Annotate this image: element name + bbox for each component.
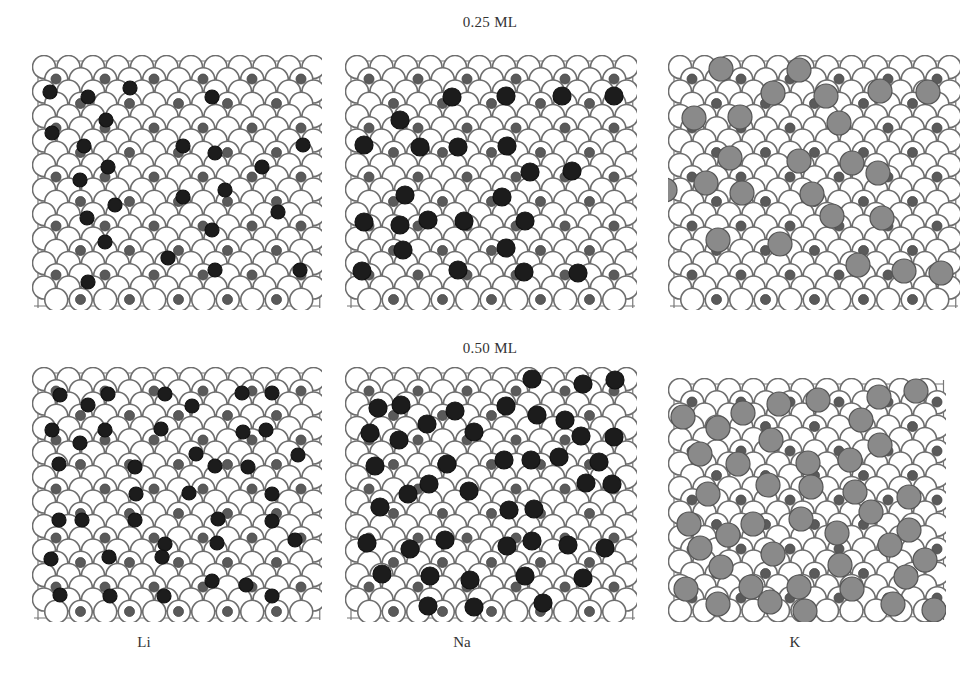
interstitial-atom <box>174 607 184 617</box>
interstitial-atom <box>389 460 399 470</box>
interstitial-atom <box>834 172 844 182</box>
k-adsorbate-atom <box>718 146 742 170</box>
panel-k-025 <box>668 55 960 310</box>
na-adsorbate-atom <box>418 415 436 433</box>
interstitial-atom <box>247 123 257 133</box>
interstitial-atom <box>438 246 448 256</box>
panel-li-050 <box>32 367 322 622</box>
na-adsorbate-atom <box>493 188 511 206</box>
interstitial-atom <box>712 295 722 305</box>
interstitial-atom <box>389 509 399 519</box>
panel-li-025 <box>32 55 322 310</box>
li-adsorbate-atom <box>189 447 203 461</box>
interstitial-atom <box>413 74 423 84</box>
substrate-atom <box>603 288 626 310</box>
na-adsorbate-atom <box>523 370 541 388</box>
substrate-atom <box>779 288 802 310</box>
interstitial-atom <box>149 172 159 182</box>
substrate-atom <box>241 288 264 310</box>
interstitial-atom <box>687 397 697 407</box>
k-adsorbate-atom <box>674 577 698 601</box>
na-adsorbate-atom <box>369 399 387 417</box>
interstitial-atom <box>51 221 61 231</box>
interstitial-atom <box>413 386 423 396</box>
interstitial-atom <box>609 270 619 280</box>
k-adsorbate-atom <box>913 548 937 572</box>
k-adsorbate-atom <box>716 523 740 547</box>
interstitial-atom <box>511 386 521 396</box>
interstitial-atom <box>174 509 184 519</box>
li-adsorbate-atom <box>208 459 222 473</box>
interstitial-atom <box>609 582 619 592</box>
interstitial-atom <box>536 558 546 568</box>
interstitial-atom <box>296 221 306 231</box>
interstitial-atom <box>364 172 374 182</box>
interstitial-atom <box>389 607 399 617</box>
li-adsorbate-atom <box>205 223 219 237</box>
panel-na-025 <box>345 55 637 310</box>
interstitial-atom <box>932 123 942 133</box>
interstitial-atom <box>908 99 918 109</box>
interstitial-atom <box>100 533 110 543</box>
k-adsorbate-atom <box>694 171 718 195</box>
na-adsorbate-atom <box>596 539 614 557</box>
na-adsorbate-atom <box>419 597 437 615</box>
interstitial-atom <box>560 123 570 133</box>
interstitial-atom <box>536 295 546 305</box>
k-adsorbate-atom <box>922 598 946 622</box>
interstitial-atom <box>932 397 942 407</box>
na-adsorbate-atom <box>461 571 479 589</box>
interstitial-atom <box>389 558 399 568</box>
na-adsorbate-atom <box>419 211 437 229</box>
interstitial-atom <box>272 246 282 256</box>
interstitial-atom <box>932 495 942 505</box>
interstitial-atom <box>149 582 159 592</box>
interstitial-atom <box>296 484 306 494</box>
interstitial-atom <box>736 221 746 231</box>
interstitial-atom <box>364 386 374 396</box>
interstitial-atom <box>810 148 820 158</box>
interstitial-atom <box>296 435 306 445</box>
interstitial-atom <box>76 558 86 568</box>
interstitial-atom <box>785 544 795 554</box>
interstitial-atom <box>272 148 282 158</box>
k-adsorbate-atom <box>767 392 791 416</box>
interstitial-atom <box>125 411 135 421</box>
k-adsorbate-atom <box>741 512 765 536</box>
na-adsorbate-atom <box>391 111 409 129</box>
interstitial-atom <box>438 197 448 207</box>
k-adsorbate-atom <box>761 542 785 566</box>
panel-na-050 <box>345 367 637 622</box>
na-adsorbate-atom <box>497 239 515 257</box>
interstitial-atom <box>560 386 570 396</box>
li-adsorbate-atom <box>128 513 142 527</box>
na-adsorbate-atom <box>528 406 546 424</box>
na-adsorbate-atom <box>436 531 454 549</box>
interstitial-atom <box>76 460 86 470</box>
interstitial-atom <box>834 397 844 407</box>
interstitial-atom <box>100 221 110 231</box>
substrate-atom <box>241 600 264 622</box>
interstitial-atom <box>883 495 893 505</box>
substrate-atom <box>505 288 528 310</box>
substrate-atom <box>877 288 900 310</box>
li-adsorbate-atom <box>265 487 279 501</box>
na-adsorbate-atom <box>396 186 414 204</box>
li-adsorbate-atom <box>205 574 219 588</box>
interstitial-atom <box>585 607 595 617</box>
k-adsorbate-atom <box>840 577 864 601</box>
interstitial-atom <box>149 435 159 445</box>
li-adsorbate-atom <box>176 190 190 204</box>
na-adsorbate-atom <box>516 212 534 230</box>
k-adsorbate-atom <box>688 442 712 466</box>
interstitial-atom <box>536 197 546 207</box>
interstitial-atom <box>487 411 497 421</box>
interstitial-atom <box>389 148 399 158</box>
interstitial-atom <box>585 295 595 305</box>
interstitial-atom <box>223 148 233 158</box>
interstitial-atom <box>198 270 208 280</box>
na-adsorbate-atom <box>603 475 621 493</box>
interstitial-atom <box>932 446 942 456</box>
li-adsorbate-atom <box>73 173 87 187</box>
na-adsorbate-atom <box>497 87 515 105</box>
